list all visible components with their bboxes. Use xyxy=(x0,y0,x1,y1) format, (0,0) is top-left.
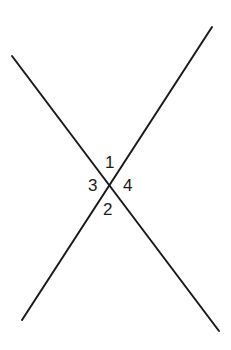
vertical-angles-diagram: 1 3 4 2 xyxy=(0,0,231,350)
angle-label-3: 3 xyxy=(88,176,97,195)
line-a xyxy=(12,56,219,331)
angle-label-1: 1 xyxy=(105,153,114,172)
angle-label-2: 2 xyxy=(103,200,112,219)
line-b xyxy=(22,27,212,320)
angle-label-4: 4 xyxy=(123,176,132,195)
